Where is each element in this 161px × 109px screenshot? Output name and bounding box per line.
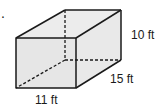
front-face xyxy=(16,38,76,88)
depth-label: 15 ft xyxy=(110,73,133,85)
width-label: 11 ft xyxy=(35,94,57,106)
height-label: 10 ft xyxy=(131,29,154,41)
prism-diagram xyxy=(0,0,161,109)
